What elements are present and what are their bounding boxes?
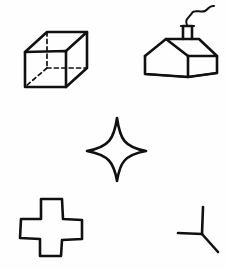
y-ray-left [178,233,202,234]
star-outline [87,118,146,181]
figure-plus-cross [20,199,82,256]
figure-tri-radial-y [178,207,218,252]
y-ray-up [202,207,203,234]
house-roof-plane [166,39,217,56]
house-gable [145,39,188,56]
figure-house-with-chimney [145,6,217,77]
figure-four-pointed-star [87,118,146,181]
y-ray-down-right [202,234,218,252]
line-art-canvas [0,0,227,269]
cross-outline [20,199,82,256]
cube-hidden-edge-diagonal [26,68,47,86]
house-chimney [183,26,192,39]
cube-top-face [25,32,87,52]
drawing-sheet: Wireframe cube House with smoking chimne… [0,0,227,269]
house-smoke-trail [186,6,214,25]
figure-wireframe-cube [25,32,87,87]
